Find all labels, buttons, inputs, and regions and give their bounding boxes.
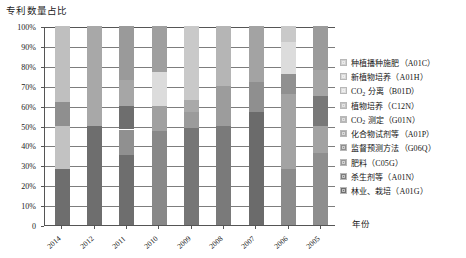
bar-segment[interactable] xyxy=(87,126,102,226)
legend-item[interactable]: 种植播种施肥（A01C） xyxy=(340,55,464,69)
y-tick-label: 40% xyxy=(21,142,36,151)
bar-stack[interactable] xyxy=(249,27,264,225)
x-tick-mark xyxy=(223,226,224,229)
bar-segment[interactable] xyxy=(119,80,134,106)
bar-segment[interactable] xyxy=(152,131,167,225)
bar-segment[interactable] xyxy=(216,86,231,126)
legend-label: CO2 测定（G01N） xyxy=(351,114,420,125)
legend-swatch-icon xyxy=(340,159,347,166)
bar-stack[interactable] xyxy=(55,27,70,225)
y-tick-label: 0 xyxy=(32,222,36,231)
legend-label: 种植播种施肥（A01C） xyxy=(351,57,435,68)
bar-stack[interactable] xyxy=(216,27,231,225)
y-axis: 100%90%80%70%60%50%40%30%20%10%0 xyxy=(0,27,40,226)
x-axis: 201420122011201020092008200720062005 xyxy=(44,226,335,252)
bar-segment[interactable] xyxy=(216,126,231,226)
bar-segment[interactable] xyxy=(55,26,70,102)
bar-segment[interactable] xyxy=(313,126,328,154)
bar-segment[interactable] xyxy=(216,26,231,86)
chart-title: 专利数量占比 xyxy=(6,3,68,17)
bars-layer xyxy=(45,27,335,225)
legend-item[interactable]: 植物培养（C12N） xyxy=(340,98,464,112)
bar-segment[interactable] xyxy=(119,106,134,130)
x-tick-label: 2007 xyxy=(240,234,257,251)
x-tick-label: 2009 xyxy=(175,234,192,251)
bar-stack[interactable] xyxy=(152,27,167,225)
bar-segment[interactable] xyxy=(119,26,134,80)
x-tick-mark xyxy=(288,226,289,229)
bar-segment[interactable] xyxy=(313,96,328,126)
x-tick-label: 2006 xyxy=(272,234,289,251)
legend-label: CO2 分离（B01D） xyxy=(351,85,419,96)
bar-segment[interactable] xyxy=(55,169,70,225)
bar-segment[interactable] xyxy=(281,26,296,42)
legend-item[interactable]: 新植物培养（A01H） xyxy=(340,69,464,83)
x-tick-mark xyxy=(94,226,95,229)
bar-segment[interactable] xyxy=(281,94,296,170)
x-tick-mark xyxy=(61,226,62,229)
bar-segment[interactable] xyxy=(184,112,199,128)
legend-swatch-icon xyxy=(340,116,347,123)
bar-segment[interactable] xyxy=(184,128,199,226)
y-tick-label: 60% xyxy=(21,102,36,111)
legend-label: 杀生剂等（A01N） xyxy=(351,171,420,182)
x-tick-mark xyxy=(191,226,192,229)
legend-swatch-icon xyxy=(340,102,347,109)
legend-item[interactable]: CO2 测定（G01N） xyxy=(340,112,464,126)
bar-segment[interactable] xyxy=(281,42,296,74)
bar-segment[interactable] xyxy=(152,26,167,72)
x-tick-mark xyxy=(320,226,321,229)
bar-stack[interactable] xyxy=(87,27,102,225)
x-tick-label: 2005 xyxy=(304,234,321,251)
bar-segment[interactable] xyxy=(184,26,199,100)
bar-segment[interactable] xyxy=(249,112,264,225)
bar-segment[interactable] xyxy=(249,82,264,112)
legend-item[interactable]: 化合物试剂等（A01P） xyxy=(340,126,464,140)
bar-segment[interactable] xyxy=(313,153,328,225)
stacked-bar-chart: 专利数量占比 100%90%80%70%60%50%40%30%20%10%0 … xyxy=(0,0,466,258)
legend-item[interactable]: CO2 分离（B01D） xyxy=(340,84,464,98)
x-axis-title: 年份 xyxy=(352,217,370,229)
legend-label: 林业、栽培（A01G） xyxy=(351,185,428,196)
legend-label: 肥料（C05G） xyxy=(351,157,403,168)
y-tick-label: 70% xyxy=(21,82,36,91)
y-tick-label: 10% xyxy=(21,202,36,211)
x-tick-label: 2008 xyxy=(207,234,224,251)
bar-segment[interactable] xyxy=(152,106,167,132)
bar-segment[interactable] xyxy=(184,100,199,112)
bar-segment[interactable] xyxy=(313,70,328,96)
x-tick-label: 2012 xyxy=(78,234,95,251)
bar-segment[interactable] xyxy=(281,169,296,225)
bar-segment[interactable] xyxy=(313,26,328,70)
legend-swatch-icon xyxy=(340,187,347,194)
y-tick-label: 90% xyxy=(21,42,36,51)
bar-segment[interactable] xyxy=(55,102,70,126)
legend-item[interactable]: 肥料（C05G） xyxy=(340,155,464,169)
legend-item[interactable]: 林业、栽培（A01G） xyxy=(340,184,464,198)
y-tick-label: 80% xyxy=(21,62,36,71)
x-tick-mark xyxy=(255,226,256,229)
bar-segment[interactable] xyxy=(55,126,70,170)
bar-segment[interactable] xyxy=(119,155,134,225)
x-tick-label: 2011 xyxy=(110,234,127,251)
bar-segment[interactable] xyxy=(249,26,264,82)
x-tick-mark xyxy=(158,226,159,229)
bar-segment[interactable] xyxy=(281,74,296,94)
bar-stack[interactable] xyxy=(184,27,199,225)
bar-segment[interactable] xyxy=(119,130,134,156)
legend-label: 监督预测方法（G06Q） xyxy=(351,142,436,153)
bar-segment[interactable] xyxy=(152,72,167,106)
legend-item[interactable]: 杀生剂等（A01N） xyxy=(340,169,464,183)
legend-item[interactable]: 监督预测方法（G06Q） xyxy=(340,141,464,155)
x-tick-label: 2014 xyxy=(46,234,63,251)
y-tick-label: 20% xyxy=(21,182,36,191)
legend-swatch-icon xyxy=(340,173,347,180)
legend-swatch-icon xyxy=(340,87,347,94)
bar-stack[interactable] xyxy=(119,27,134,225)
bar-segment[interactable] xyxy=(87,26,102,126)
bar-stack[interactable] xyxy=(313,27,328,225)
x-tick-label: 2010 xyxy=(143,234,160,251)
plot-area xyxy=(44,27,335,226)
legend-swatch-icon xyxy=(340,130,347,137)
bar-stack[interactable] xyxy=(281,27,296,225)
